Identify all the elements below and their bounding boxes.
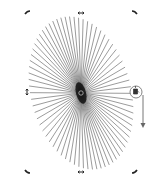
scale-handle-left-icon[interactable] — [26, 89, 28, 95]
rotate-handle-bottom-left-icon[interactable] — [25, 170, 30, 173]
drawing-canvas[interactable] — [0, 0, 148, 182]
rotate-handle-top-right-icon[interactable] — [132, 11, 137, 14]
scale-handle-bottom-icon[interactable] — [78, 171, 84, 173]
scale-handle-top-icon[interactable] — [78, 12, 84, 14]
radial-line-burst[interactable] — [13, 5, 148, 182]
paint-bucket-cursor — [130, 86, 146, 128]
rotate-handle-bottom-right-icon[interactable] — [132, 170, 137, 173]
rotate-handle-top-left-icon[interactable] — [25, 11, 30, 14]
